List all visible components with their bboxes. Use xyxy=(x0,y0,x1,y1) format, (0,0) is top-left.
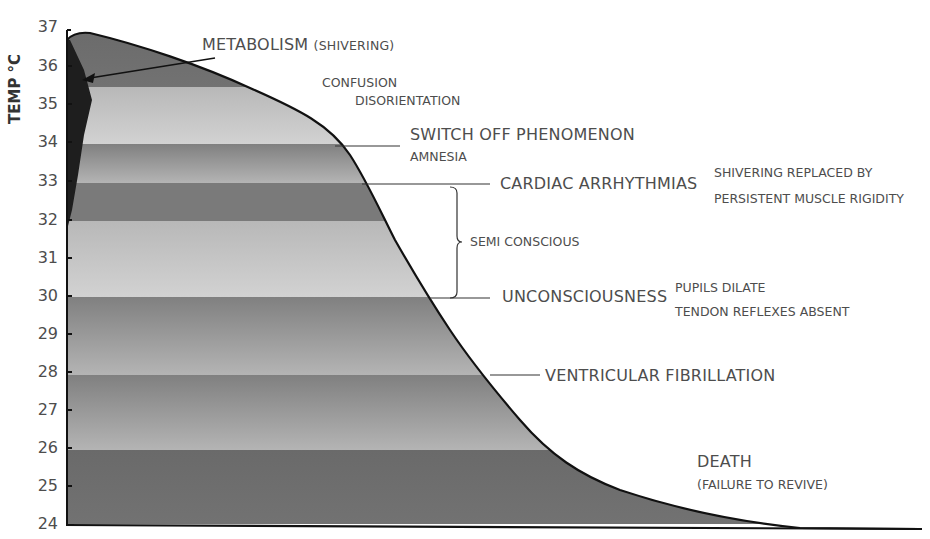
y-axis-title: TEMP °C xyxy=(6,54,24,124)
y-tick-35: 35 xyxy=(24,96,58,112)
label-shivering-replaced: SHIVERING REPLACED BY xyxy=(714,167,872,180)
label-disorientation: DISORIENTATION xyxy=(355,95,460,108)
y-tick-25: 25 xyxy=(24,478,58,494)
y-tick-29: 29 xyxy=(24,326,58,342)
y-tick-28: 28 xyxy=(24,364,58,380)
y-tick-33: 33 xyxy=(24,173,58,189)
label-metabolism: METABOLISM (SHIVERING) xyxy=(202,37,394,53)
y-tick-27: 27 xyxy=(24,402,58,418)
y-tick-32: 32 xyxy=(24,212,58,228)
y-tick-30: 30 xyxy=(24,288,58,304)
y-tick-31: 31 xyxy=(24,250,58,266)
label-switch-off: SWITCH OFF PHENOMENON xyxy=(410,127,635,143)
y-tick-34: 34 xyxy=(24,134,58,150)
label-confusion: CONFUSION xyxy=(322,77,397,90)
label-death: DEATH xyxy=(697,454,752,470)
label-amnesia: AMNESIA xyxy=(410,151,467,164)
hypothermia-diagram xyxy=(0,0,930,539)
label-semi-conscious: SEMI CONSCIOUS xyxy=(470,236,579,249)
y-tick-26: 26 xyxy=(24,440,58,456)
label-muscle-rigidity: PERSISTENT MUSCLE RIGIDITY xyxy=(714,193,904,206)
label-unconsciousness: UNCONSCIOUSNESS xyxy=(502,289,667,305)
y-tick-36: 36 xyxy=(24,58,58,74)
semi-conscious-bracket xyxy=(450,187,462,298)
label-failure: (FAILURE TO REVIVE) xyxy=(697,479,828,492)
label-tendon: TENDON REFLEXES ABSENT xyxy=(675,306,849,319)
y-tick-37: 37 xyxy=(24,19,58,35)
temperature-bands xyxy=(67,20,927,524)
shivering-text: (SHIVERING) xyxy=(314,38,395,53)
label-vfib: VENTRICULAR FIBRILLATION xyxy=(545,368,775,384)
label-pupils: PUPILS DILATE xyxy=(675,282,765,295)
y-tick-24: 24 xyxy=(24,516,58,532)
label-cardiac: CARDIAC ARRHYTHMIAS xyxy=(500,176,697,192)
metabolism-text: METABOLISM xyxy=(202,35,308,54)
